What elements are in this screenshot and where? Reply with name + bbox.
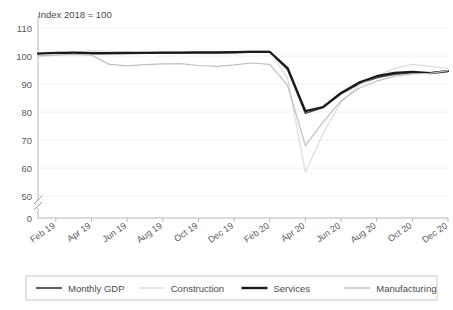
legend-label[interactable]: Manufacturing xyxy=(376,283,436,294)
x-tick-label: Oct 20 xyxy=(386,220,413,243)
y-tick-label: 80 xyxy=(21,107,32,118)
y-tick-label: 90 xyxy=(21,79,32,90)
legend-label[interactable]: Monthly GDP xyxy=(68,283,125,294)
y-tick-label: 100 xyxy=(16,51,32,62)
x-tick-label: Jun 20 xyxy=(314,220,342,244)
x-tick-label: Feb 20 xyxy=(242,220,271,244)
series-line-manufacturing xyxy=(38,54,448,145)
y-tick-label: 50 xyxy=(21,191,32,202)
legend-label[interactable]: Services xyxy=(274,283,311,294)
x-axis xyxy=(38,218,448,222)
y-axis-tick-labels: 05060708090100110 xyxy=(16,23,32,224)
series-line-construction xyxy=(38,50,448,172)
index-line-chart: 05060708090100110 Feb 19Apr 19Jun 19Aug … xyxy=(0,0,453,310)
x-tick-label: Oct 19 xyxy=(172,220,199,243)
x-tick-label: Feb 19 xyxy=(28,220,57,244)
x-tick-label: Aug 20 xyxy=(349,220,378,245)
series-line-monthly-gdp xyxy=(38,52,448,113)
x-tick-label: Apr 20 xyxy=(279,220,306,243)
y-tick-label: 0 xyxy=(27,213,32,224)
x-tick-label: Dec 20 xyxy=(420,220,449,245)
x-tick-label: Aug 19 xyxy=(135,220,164,245)
y-tick-label: 70 xyxy=(21,135,32,146)
x-tick-label: Jun 19 xyxy=(100,220,128,244)
y-axis xyxy=(34,16,42,218)
chart-container: 05060708090100110 Feb 19Apr 19Jun 19Aug … xyxy=(0,0,453,310)
x-tick-label: Dec 19 xyxy=(206,220,235,245)
legend-label[interactable]: Construction xyxy=(171,283,224,294)
x-axis-tick-labels: Feb 19Apr 19Jun 19Aug 19Oct 19Dec 19Feb … xyxy=(28,220,449,245)
legend: Monthly GDPConstructionServicesManufactu… xyxy=(26,276,437,300)
y-tick-label: 110 xyxy=(17,23,32,34)
series-lines xyxy=(38,50,448,172)
series-line-services xyxy=(38,52,448,111)
y-tick-label: 60 xyxy=(21,163,32,174)
x-tick-label: Apr 19 xyxy=(65,220,92,243)
chart-title: Index 2018 = 100 xyxy=(38,9,112,20)
